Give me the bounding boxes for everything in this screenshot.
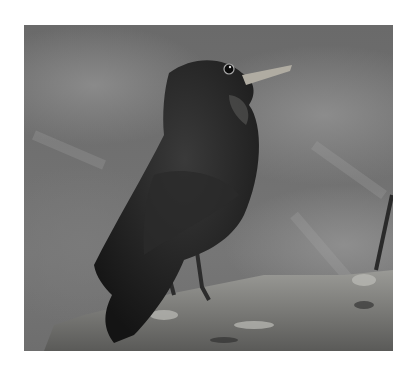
bird-illustration [24,25,393,351]
bird-photo [24,25,393,351]
